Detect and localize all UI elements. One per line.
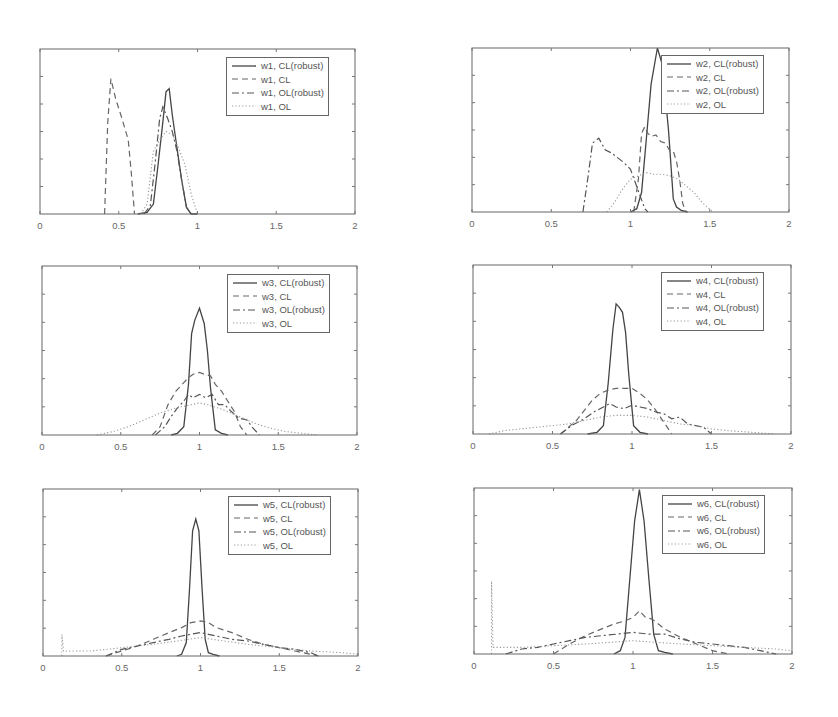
legend-entry: w6, CL(robust) bbox=[667, 497, 760, 511]
series-dotted bbox=[97, 403, 318, 435]
legend-label: w5, CL(robust) bbox=[263, 498, 325, 512]
series-dashdot bbox=[561, 404, 712, 434]
series-dotted bbox=[607, 173, 713, 212]
series-dashed bbox=[106, 621, 319, 656]
legend-entry: w1, CL bbox=[231, 73, 324, 87]
x-tick-label: 1 bbox=[628, 218, 633, 229]
x-tick-label: 1 bbox=[197, 441, 202, 452]
legend-line-dashed-icon bbox=[666, 73, 692, 81]
legend-entry: w5, OL(robust) bbox=[233, 525, 326, 539]
legend-line-dashdot-icon bbox=[666, 304, 692, 312]
legend-line-dotted-icon bbox=[231, 102, 257, 110]
legend-label: w4, CL(robust) bbox=[696, 274, 758, 288]
legend-entry: w1, OL(robust) bbox=[231, 86, 324, 100]
legend-entry: w3, CL bbox=[232, 290, 325, 304]
series-dashed bbox=[152, 373, 247, 436]
x-tick-label: 0 bbox=[470, 440, 475, 451]
x-tick-label: 2 bbox=[354, 441, 359, 452]
legend-line-dashdot-icon bbox=[666, 87, 692, 95]
x-tick-label: 0.5 bbox=[546, 440, 559, 451]
series-solid bbox=[138, 89, 198, 214]
legend-line-dashdot-icon bbox=[667, 527, 693, 535]
legend-line-dotted-icon bbox=[232, 319, 258, 327]
x-tick-label: 0.5 bbox=[115, 662, 128, 673]
legend-entry: w3, OL bbox=[232, 317, 325, 331]
legend-line-dashdot-icon bbox=[233, 528, 259, 536]
legend-entry: w3, CL(robust) bbox=[232, 276, 325, 290]
legend-line-solid-icon bbox=[232, 279, 258, 287]
legend-label: w6, OL(robust) bbox=[697, 524, 760, 538]
legend-line-solid-icon bbox=[666, 60, 692, 68]
legend-label: w6, OL bbox=[697, 538, 727, 552]
legend-line-dashed-icon bbox=[667, 513, 693, 521]
x-tick-label: 2 bbox=[789, 660, 794, 671]
legend-label: w1, OL(robust) bbox=[261, 86, 324, 100]
legend-label: w6, CL(robust) bbox=[697, 497, 759, 511]
legend-entry: w4, CL(robust) bbox=[666, 274, 759, 288]
legend-entry: w6, OL(robust) bbox=[667, 524, 760, 538]
legend-label: w4, OL bbox=[696, 315, 726, 329]
legend-entry: w5, CL(robust) bbox=[233, 498, 326, 512]
x-tick-label: 2 bbox=[352, 220, 357, 231]
legend-entry: w5, OL bbox=[233, 539, 326, 553]
legend-line-solid-icon bbox=[233, 501, 259, 509]
legend-label: w1, CL(robust) bbox=[261, 59, 323, 73]
legend-label: w1, CL bbox=[261, 73, 291, 87]
legend-entry: w1, OL bbox=[231, 100, 324, 114]
legend-label: w4, CL bbox=[696, 288, 726, 302]
series-dashdot bbox=[106, 633, 319, 656]
series-dashed bbox=[105, 79, 135, 214]
legend-line-solid-icon bbox=[667, 500, 693, 508]
legend-label: w3, OL bbox=[262, 317, 292, 331]
x-tick-label: 1.5 bbox=[703, 218, 716, 229]
legend-line-solid-icon bbox=[666, 277, 692, 285]
legend-entry: w2, OL bbox=[666, 98, 759, 112]
legend-entry: w4, OL bbox=[666, 315, 759, 329]
legend-entry: w2, OL(robust) bbox=[666, 84, 759, 98]
x-tick-label: 0.5 bbox=[545, 218, 558, 229]
x-tick-label: 1 bbox=[630, 660, 635, 671]
legend-line-dashdot-icon bbox=[232, 306, 258, 314]
legend-label: w4, OL(robust) bbox=[696, 301, 759, 315]
legend-line-dashed-icon bbox=[232, 292, 258, 300]
legend: w1, CL(robust)w1, CLw1, OL(robust)w1, OL bbox=[226, 57, 329, 116]
series-dotted bbox=[141, 132, 198, 215]
x-tick-label: 1.5 bbox=[270, 220, 283, 231]
legend-label: w5, CL bbox=[263, 512, 293, 526]
x-tick-label: 1 bbox=[195, 220, 200, 231]
legend-label: w6, CL bbox=[697, 511, 727, 525]
legend-label: w2, OL(robust) bbox=[696, 84, 759, 98]
x-tick-label: 1.5 bbox=[272, 441, 285, 452]
legend-label: w5, OL(robust) bbox=[263, 525, 326, 539]
legend-label: w5, OL bbox=[263, 539, 293, 553]
legend: w4, CL(robust)w4, CLw4, OL(robust)w4, OL bbox=[661, 272, 764, 331]
x-tick-label: 0 bbox=[37, 220, 42, 231]
legend-entry: w6, CL bbox=[667, 511, 760, 525]
series-solid bbox=[171, 308, 228, 435]
x-tick-label: 2 bbox=[355, 662, 360, 673]
legend-label: w3, CL bbox=[262, 290, 292, 304]
legend-line-dashed-icon bbox=[233, 514, 259, 522]
legend-line-dashdot-icon bbox=[231, 89, 257, 97]
x-tick-label: 0.5 bbox=[114, 441, 127, 452]
legend-line-dashed-icon bbox=[666, 290, 692, 298]
series-dashdot bbox=[506, 632, 776, 654]
x-tick-label: 2 bbox=[786, 218, 791, 229]
series-dashed bbox=[554, 611, 729, 654]
legend-line-dashed-icon bbox=[231, 75, 257, 83]
legend-entry: w4, CL bbox=[666, 288, 759, 302]
series-dotted bbox=[492, 581, 793, 654]
legend-line-dotted-icon bbox=[666, 317, 692, 325]
legend-label: w2, CL(robust) bbox=[696, 57, 758, 71]
legend-label: w2, OL bbox=[696, 98, 726, 112]
legend-line-dotted-icon bbox=[233, 541, 259, 549]
legend-entry: w5, CL bbox=[233, 512, 326, 526]
legend-label: w3, CL(robust) bbox=[262, 276, 324, 290]
x-tick-label: 1.5 bbox=[273, 662, 286, 673]
x-tick-label: 2 bbox=[788, 440, 793, 451]
x-tick-label: 1 bbox=[629, 440, 634, 451]
legend-label: w2, CL bbox=[696, 71, 726, 85]
legend-entry: w2, CL(robust) bbox=[666, 57, 759, 71]
series-dashdot bbox=[144, 107, 191, 214]
x-tick-label: 0 bbox=[469, 218, 474, 229]
